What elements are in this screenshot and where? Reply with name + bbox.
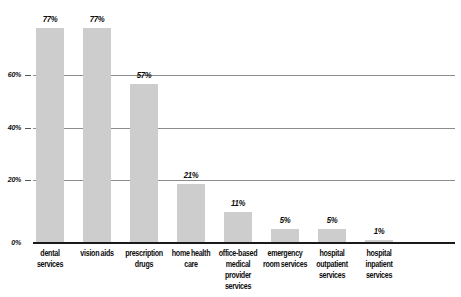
bar-emergency-room-services	[271, 229, 299, 243]
category-line: vision aids	[73, 248, 120, 259]
category-line: drugs	[120, 259, 169, 270]
category-label-hospital-inpatient-services: hospital inpatient services	[355, 248, 404, 281]
ytick-0: 0%	[0, 238, 33, 248]
axis-baseline	[33, 242, 455, 244]
bar-dental-services	[36, 28, 64, 243]
category-line: room services	[259, 259, 311, 270]
ytick-20: 20%	[0, 175, 33, 185]
category-line: dental	[26, 248, 73, 259]
category-label-dental-services: dental services	[26, 248, 73, 270]
category-line: services	[355, 270, 404, 281]
bar-value-emergency-room-services: 5%	[273, 215, 297, 225]
tickmark-60	[25, 75, 31, 76]
category-line: provider	[213, 270, 263, 281]
ytick-label-0: 0%	[11, 238, 21, 247]
bar-value-hospital-inpatient-services: 1%	[367, 226, 391, 236]
category-line: care	[167, 259, 216, 270]
tickmark-40	[25, 128, 31, 129]
plot-area: 60% 40% 20% 0% 77% 77% 57%	[0, 0, 461, 297]
bar-chart: 60% 40% 20% 0% 77% 77% 57%	[0, 0, 461, 297]
ytick-label-20: 20%	[8, 175, 21, 184]
ytick-label-60: 60%	[8, 70, 21, 79]
bar-value-vision-aids: 77%	[85, 14, 109, 24]
category-line: home health	[167, 248, 216, 259]
bar-office-based-medical-provider-services	[224, 212, 252, 243]
bar-home-health-care	[177, 184, 205, 243]
bar-value-hospital-outpatient-services: 5%	[320, 215, 344, 225]
ytick-60: 60%	[0, 70, 33, 80]
category-line: services	[213, 281, 263, 292]
category-line: prescription	[120, 248, 169, 259]
category-line: hospital	[355, 248, 404, 259]
category-label-vision-aids: vision aids	[73, 248, 120, 259]
category-line: emergency	[259, 248, 311, 259]
category-line: services	[26, 259, 73, 270]
bar-value-dental-services: 77%	[38, 14, 62, 24]
ytick-40: 40%	[0, 123, 33, 133]
bar-vision-aids	[83, 28, 111, 243]
category-line: hospital	[308, 248, 357, 259]
category-label-office-based-medical-provider-services: office-based medical provider services	[213, 248, 263, 292]
bar-value-office-based-medical-provider-services: 11%	[226, 198, 250, 208]
category-label-prescription-drugs: prescription drugs	[120, 248, 169, 270]
tickmark-20	[25, 180, 31, 181]
category-label-emergency-room-services: emergency room services	[259, 248, 311, 270]
bar-value-prescription-drugs: 57%	[132, 70, 156, 80]
category-line: medical	[213, 259, 263, 270]
category-label-hospital-outpatient-services: hospital outpatient services	[308, 248, 357, 281]
category-line: services	[308, 270, 357, 281]
bar-value-home-health-care: 21%	[179, 170, 203, 180]
category-label-home-health-care: home health care	[167, 248, 216, 270]
bar-prescription-drugs	[130, 84, 158, 243]
category-line: inpatient	[355, 259, 404, 270]
category-line: office-based	[213, 248, 263, 259]
ytick-label-40: 40%	[8, 123, 21, 132]
category-line: outpatient	[308, 259, 357, 270]
bar-hospital-outpatient-services	[318, 229, 346, 243]
